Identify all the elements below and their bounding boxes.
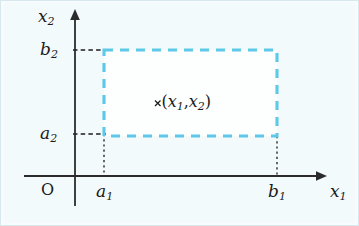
x-tick-label-a1: a1 bbox=[96, 183, 113, 200]
x-axis-arrowhead bbox=[316, 171, 327, 181]
y-tick-label-a2: a2 bbox=[40, 125, 57, 142]
point-coordinate-label: (x1,x2) bbox=[155, 94, 211, 110]
x-tick-label-b1: b1 bbox=[268, 183, 286, 200]
origin-label: O bbox=[41, 182, 54, 198]
x-axis-label: x1 bbox=[330, 183, 347, 200]
y-axis-arrowhead bbox=[70, 9, 80, 20]
figure-canvas: x2 x1 b2 a2 a1 b1 O (x1,x2) bbox=[0, 0, 359, 226]
y-tick-label-b2: b2 bbox=[40, 41, 58, 58]
y-axis-label: x2 bbox=[38, 8, 55, 25]
